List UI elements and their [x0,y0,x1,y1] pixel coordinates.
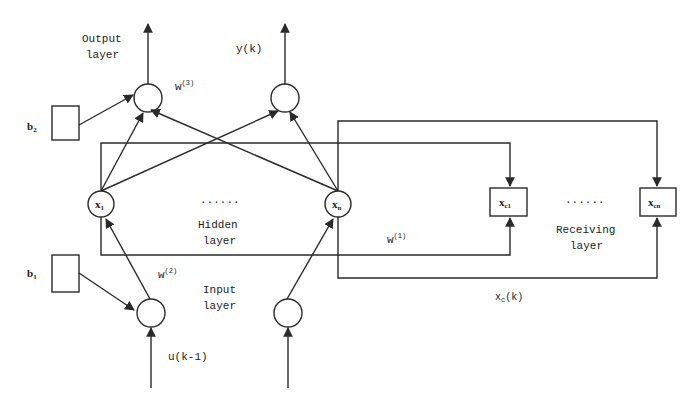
conn-xn-o1 [151,110,338,191]
output-neuron-n [271,84,299,112]
output-layer-label: Output [82,33,122,45]
conn-xn-on [290,112,338,191]
conn-x1-o1 [101,113,143,191]
input-neuron-1 [137,299,165,327]
input-layer-label-2: layer [203,300,236,312]
elman-network-diagram: Output layer y(k) w(3) b2 x1 xn ...... H… [0,0,699,413]
weight-w1-label: w(1) [387,232,406,246]
output-signal-label: y(k) [236,43,262,55]
bias-box-b2 [52,106,79,140]
receiving-layer-label-2: layer [570,240,603,252]
weight-w2-label: w(2) [158,267,177,281]
output-layer-label-2: layer [86,49,119,61]
feedback-loop-x1-bottom [101,217,510,255]
bias-b2-arrow [79,95,133,125]
bias-box-b1 [52,255,79,292]
receiving-layer-label: Receiving [556,224,615,236]
context-signal-label: xc(k) [495,292,523,304]
input-neuron-n [274,299,302,327]
conn-i1-x1 [106,219,150,299]
weight-w3-label: w(3) [175,79,194,93]
receiving-ellipsis: ...... [565,194,605,206]
hidden-layer-label: Hidden [198,219,238,231]
feedback-loop-x1-top [101,143,510,191]
conn-x1-on [101,111,278,191]
bias-b1-label: b1 [27,267,37,281]
bias-b1-arrow [79,273,134,310]
bias-b2-label: b2 [27,120,37,134]
hidden-layer-label-2: layer [203,235,236,247]
feedback-loop-xn-top [338,121,657,191]
conn-in-xn [287,219,333,299]
input-layer-label: Input [203,284,236,296]
hidden-ellipsis: ...... [200,194,240,206]
output-neuron-1 [134,84,162,112]
input-signal-label: u(k-1) [168,351,208,363]
